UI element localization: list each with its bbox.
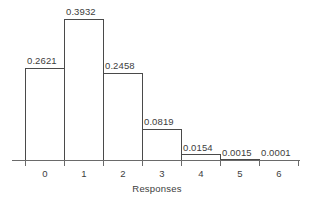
data-label-4: 0.0154 — [183, 142, 213, 153]
x-tick-label-2: 2 — [120, 168, 125, 179]
x-tick-label-4: 4 — [198, 168, 203, 179]
x-axis-tick-labels: 0 1 2 3 4 5 6 — [42, 168, 281, 179]
figure-container: 0.2621 0.3932 0.2458 0.0819 0.0154 0.001… — [0, 0, 310, 208]
x-tick-label-3: 3 — [159, 168, 164, 179]
bar-3 — [143, 130, 182, 161]
figure-caption-partial — [118, 199, 198, 206]
x-tick-label-6: 6 — [276, 168, 281, 179]
bar-0 — [26, 69, 65, 161]
data-label-3: 0.0819 — [144, 116, 174, 127]
bars-group — [26, 20, 299, 161]
bar-4 — [182, 155, 221, 161]
data-labels-group: 0.2621 0.3932 0.2458 0.0819 0.0154 0.001… — [27, 6, 291, 158]
data-label-0: 0.2621 — [27, 55, 57, 66]
data-label-5: 0.0015 — [222, 147, 252, 158]
bar-2 — [104, 74, 143, 161]
x-tick-label-0: 0 — [42, 168, 47, 179]
x-axis-ticks — [26, 161, 299, 167]
x-axis-title: Responses — [132, 183, 181, 194]
data-label-1: 0.3932 — [66, 6, 96, 17]
data-label-6: 0.0001 — [261, 147, 291, 158]
x-tick-label-1: 1 — [81, 168, 86, 179]
x-tick-label-5: 5 — [237, 168, 242, 179]
bar-chart: 0.2621 0.3932 0.2458 0.0819 0.0154 0.001… — [0, 0, 310, 208]
data-label-2: 0.2458 — [105, 60, 135, 71]
bar-1 — [65, 20, 104, 161]
